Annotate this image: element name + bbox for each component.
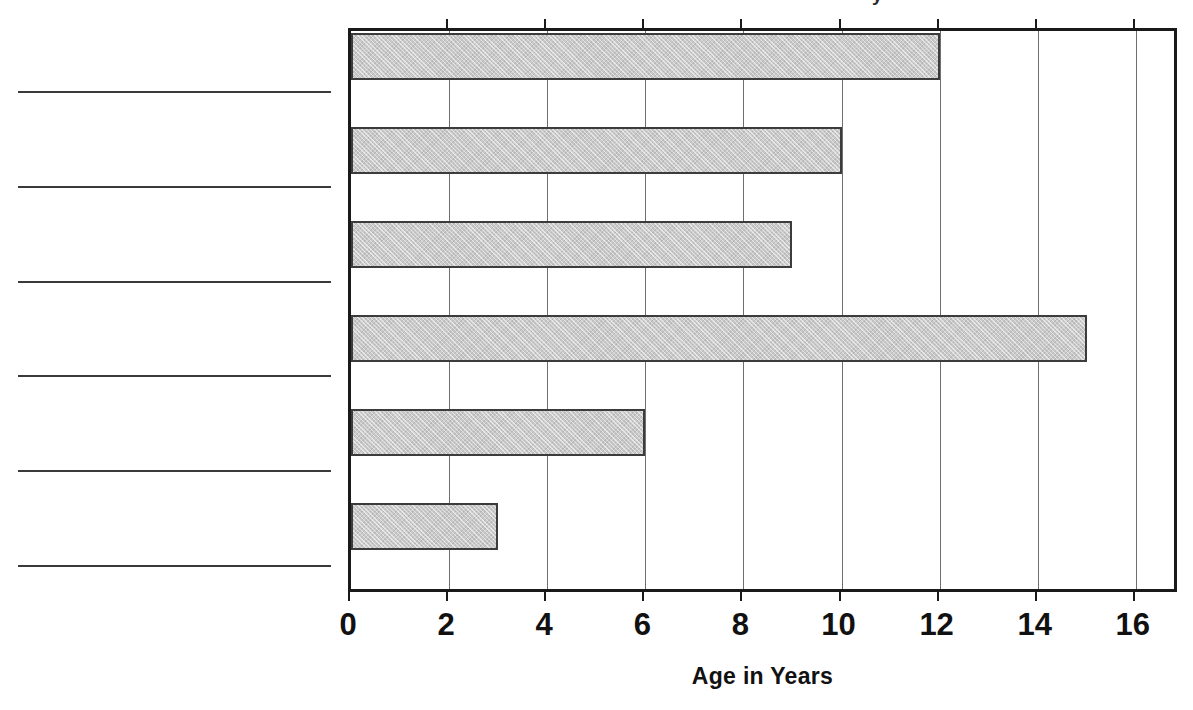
gridline-8 — [743, 31, 744, 589]
x-tick-label-12: 12 — [919, 609, 953, 640]
answer-line-6[interactable] — [18, 565, 331, 567]
gridline-10 — [842, 31, 843, 589]
x-tick-mark-12 — [937, 592, 939, 601]
x-tick-mark-0 — [348, 592, 350, 601]
x-top-tick-mark-16 — [1133, 19, 1135, 28]
x-tick-mark-10 — [839, 592, 841, 601]
x-tick-label-16: 16 — [1116, 609, 1150, 640]
answer-line-2[interactable] — [18, 186, 331, 188]
x-top-tick-mark-2 — [446, 19, 448, 28]
x-tick-mark-2 — [446, 592, 448, 601]
gridline-12 — [940, 31, 941, 589]
x-tick-label-14: 14 — [1017, 609, 1051, 640]
x-tick-label-6: 6 — [634, 609, 651, 640]
x-top-tick-mark-14 — [1035, 19, 1037, 28]
bar-4 — [351, 315, 1087, 362]
x-tick-mark-6 — [642, 592, 644, 601]
category-answer-lines — [0, 0, 340, 710]
x-tick-label-0: 0 — [339, 609, 356, 640]
gridline-4 — [547, 31, 548, 589]
answer-line-5[interactable] — [18, 470, 331, 472]
plot-inner — [351, 31, 1174, 589]
figure-canvas: y 0246810121416 Age in Years — [0, 0, 1193, 710]
answer-line-1[interactable] — [18, 91, 331, 93]
x-tick-mark-16 — [1133, 592, 1135, 601]
x-tick-label-10: 10 — [821, 609, 855, 640]
bar-1 — [351, 33, 940, 80]
bar-6 — [351, 503, 498, 550]
bar-2 — [351, 127, 842, 174]
x-top-tick-mark-4 — [544, 19, 546, 28]
cropped-title-fragment: y — [872, 0, 890, 5]
x-top-tick-mark-10 — [839, 19, 841, 28]
bar-5 — [351, 409, 645, 456]
gridline-14 — [1038, 31, 1039, 589]
x-top-tick-mark-6 — [642, 19, 644, 28]
x-axis-title: Age in Years — [348, 663, 1177, 690]
gridline-6 — [645, 31, 646, 589]
x-tick-label-4: 4 — [536, 609, 553, 640]
x-top-tick-mark-12 — [937, 19, 939, 28]
x-tick-label-2: 2 — [437, 609, 454, 640]
bar-chart-plot-area — [348, 28, 1177, 592]
x-tick-mark-4 — [544, 592, 546, 601]
x-tick-mark-14 — [1035, 592, 1037, 601]
x-top-tick-mark-8 — [740, 19, 742, 28]
x-tick-mark-8 — [740, 592, 742, 601]
bar-3 — [351, 221, 792, 268]
gridline-16 — [1136, 31, 1137, 589]
x-tick-label-8: 8 — [732, 609, 749, 640]
answer-line-3[interactable] — [18, 281, 331, 283]
cropped-title-text: y — [872, 0, 883, 4]
answer-line-4[interactable] — [18, 375, 331, 377]
